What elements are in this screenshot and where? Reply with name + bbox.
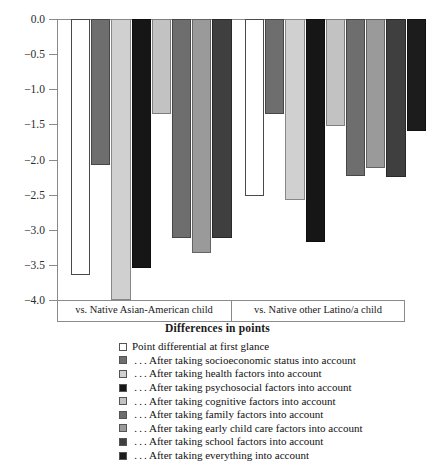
y-axis-tick-label: −1.0 <box>2 83 45 95</box>
legend-swatch-icon <box>119 370 127 378</box>
y-axis: 0.0−0.5−1.0−1.5−2.0−2.5−3.0−3.5−4.0 <box>0 0 57 330</box>
y-axis-tick-label: −4.0 <box>2 294 45 306</box>
y-axis-tick-label: 0.0 <box>2 13 45 25</box>
legend-item: . . . After taking family factors into a… <box>0 408 435 422</box>
y-axis-tick-label: −2.5 <box>2 189 45 201</box>
bar <box>71 19 90 275</box>
group-label-asian-american: vs. Native Asian-American child <box>57 304 231 315</box>
legend-swatch-icon <box>119 424 127 432</box>
legend-item-label: . . . After taking family factors into a… <box>132 409 323 420</box>
y-axis-tick-mark <box>49 124 57 125</box>
legend-item-label: . . . After taking socioeconomic status … <box>132 355 356 366</box>
legend-item-label: . . . After taking cognitive factors int… <box>132 396 336 407</box>
y-axis-tick-mark <box>49 160 57 161</box>
y-axis-tick-label: −2.0 <box>2 154 45 166</box>
bar <box>132 19 151 268</box>
legend-item-label: . . . After taking everything into accou… <box>132 450 309 461</box>
bar <box>346 19 365 176</box>
y-axis-tick-label: −1.5 <box>2 118 45 130</box>
bar <box>386 19 405 177</box>
y-axis-tick-mark <box>49 195 57 196</box>
legend-swatch-icon <box>119 411 127 419</box>
bar <box>265 19 284 114</box>
bar <box>172 19 191 238</box>
legend-item: Point differential at first glance <box>0 340 435 354</box>
group-labels: vs. Native Asian-American child vs. Nati… <box>57 301 405 323</box>
y-axis-tick-label: −3.5 <box>2 259 45 271</box>
bar <box>306 19 325 242</box>
legend-item-label: . . . After taking school factors into a… <box>132 436 323 447</box>
legend-swatch-icon <box>119 384 127 392</box>
y-axis-tick-mark <box>49 230 57 231</box>
bars-container <box>57 19 405 300</box>
y-axis-tick-mark <box>49 89 57 90</box>
legend-swatch-icon <box>119 343 127 351</box>
bar <box>326 19 345 126</box>
legend-item-label: Point differential at first glance <box>132 341 269 352</box>
legend-swatch-icon <box>119 438 127 446</box>
bar <box>285 19 304 200</box>
legend-swatch-icon <box>119 356 127 364</box>
legend-item: . . . After taking socioeconomic status … <box>0 354 435 368</box>
legend-swatch-icon <box>119 397 127 405</box>
bar <box>152 19 171 114</box>
y-axis-tick-mark <box>49 265 57 266</box>
bar <box>366 19 385 168</box>
y-axis-tick-mark <box>49 19 57 20</box>
y-axis-tick-mark <box>49 300 57 301</box>
x-axis-title: Differences in points <box>0 322 435 334</box>
legend-item: . . . After taking school factors into a… <box>0 435 435 449</box>
legend-item: . . . After taking cognitive factors int… <box>0 394 435 408</box>
legend-swatch-icon <box>119 452 127 460</box>
y-axis-tick-label: −3.0 <box>2 224 45 236</box>
legend-item-label: . . . After taking psychosocial factors … <box>132 382 352 393</box>
bar <box>407 19 426 131</box>
y-axis-tick-mark <box>49 54 57 55</box>
legend-item: . . . After taking early child care fact… <box>0 422 435 436</box>
bar <box>111 19 130 300</box>
legend-item: . . . After taking health factors into a… <box>0 367 435 381</box>
legend-item: . . . After taking everything into accou… <box>0 449 435 463</box>
bar-chart: 0.0−0.5−1.0−1.5−2.0−2.5−3.0−3.5−4.0 vs. … <box>0 0 435 330</box>
bar <box>91 19 110 165</box>
legend-item-label: . . . After taking early child care fact… <box>132 423 362 434</box>
bar <box>192 19 211 253</box>
y-axis-tick-label: −0.5 <box>2 48 45 60</box>
legend-item-label: . . . After taking health factors into a… <box>132 368 322 379</box>
legend-item: . . . After taking psychosocial factors … <box>0 381 435 395</box>
group-label-other-latino: vs. Native other Latino/a child <box>231 304 405 315</box>
bar <box>245 19 264 196</box>
chart-legend: Point differential at first glance . . .… <box>0 340 435 462</box>
bar <box>212 19 231 238</box>
